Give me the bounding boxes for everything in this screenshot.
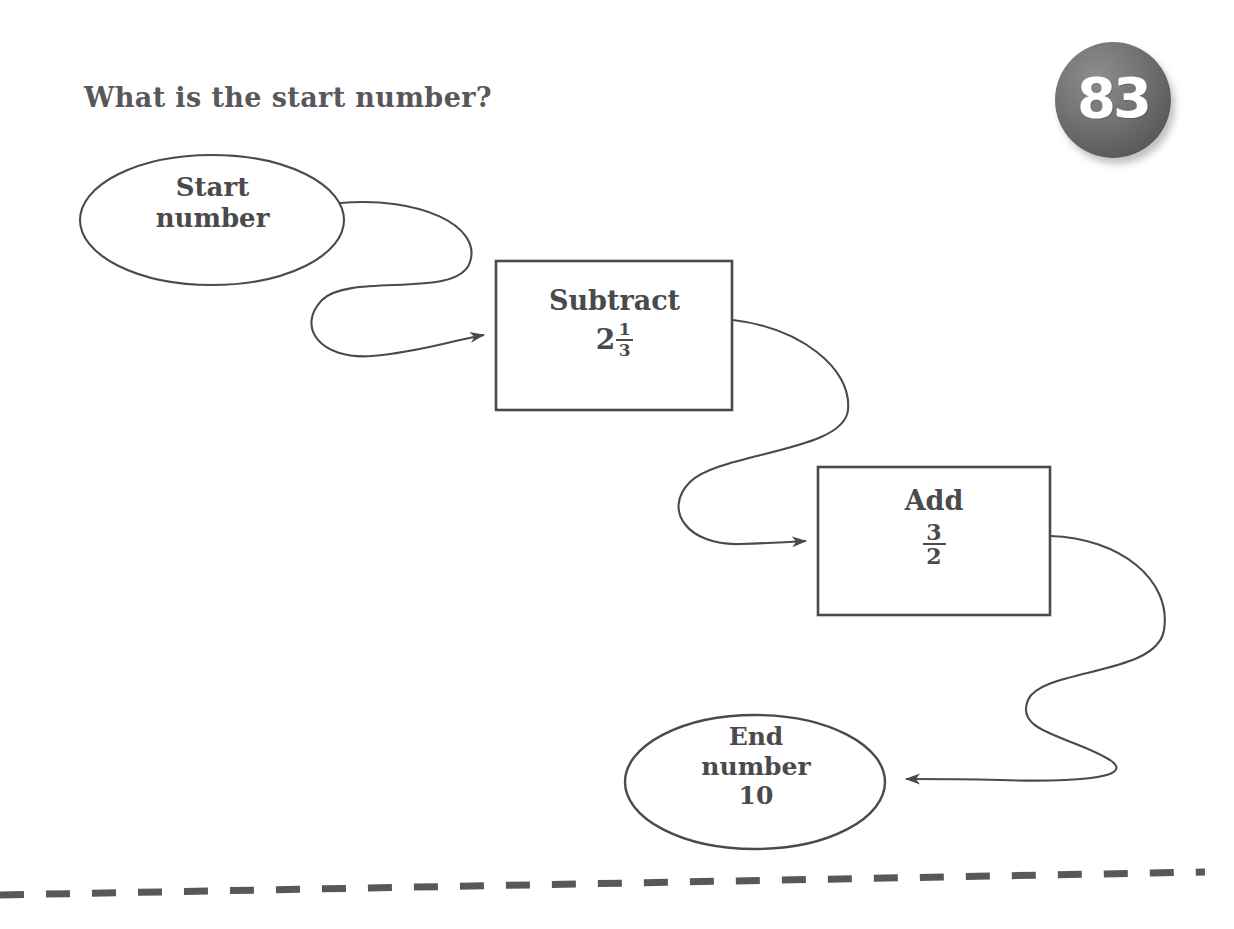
add-box-shape [818,467,1050,615]
start-node-shape [80,155,344,285]
cut-line [0,872,1205,895]
connector-start-to-subtract [311,202,484,356]
flowchart-canvas [0,0,1234,929]
subtract-box-shape [496,261,732,410]
end-node-shape [625,715,885,849]
worksheet-page: What is the start number? 83 [0,0,1234,929]
connector-add-to-end [906,536,1165,781]
connector-subtract-to-add [679,320,849,544]
